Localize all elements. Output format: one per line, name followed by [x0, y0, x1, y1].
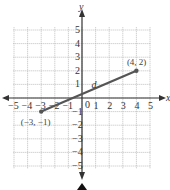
coordinate-plane: xy−5−4−3−2−1012345−5−4−3−2−112345(4, 2)(…: [0, 0, 170, 190]
endpoint: [134, 69, 138, 73]
point-label-neg3-neg1: (−3, −1): [21, 117, 51, 127]
y-tick-label: −2: [72, 119, 83, 130]
x-tick-label: 5: [148, 100, 153, 111]
x-tick-label: 3: [121, 100, 126, 111]
x-tick-label: −5: [8, 100, 19, 111]
x-axis-right-arrow-icon: [159, 95, 166, 101]
y-axis-label: y: [78, 1, 84, 12]
y-tick-label: −3: [72, 133, 83, 144]
y-tick-label: 1: [75, 78, 80, 89]
cursor-triangle-icon: [77, 183, 87, 190]
y-tick-label: −5: [72, 160, 83, 171]
x-tick-label: 4: [134, 100, 139, 111]
y-tick-label: −4: [72, 146, 83, 157]
y-axis-down-arrow-icon: [79, 172, 85, 180]
x-axis-label: x: [165, 92, 170, 103]
x-tick-label: −4: [22, 100, 33, 111]
y-tick-label: 5: [75, 24, 80, 35]
y-tick-label: 2: [75, 65, 80, 76]
y-tick-label: 3: [75, 51, 80, 62]
y-tick-label: −1: [72, 106, 83, 117]
endpoint: [39, 109, 43, 113]
point-label-4-2: (4, 2): [127, 57, 147, 67]
x-tick-label: 1: [94, 100, 99, 111]
y-tick-label: 4: [75, 38, 80, 49]
origin-label: 0: [85, 99, 90, 110]
x-tick-label: 2: [107, 100, 112, 111]
